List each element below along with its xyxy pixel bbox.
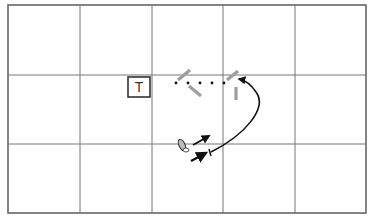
path-dot <box>223 82 226 85</box>
path-dot <box>211 82 214 85</box>
drill-diagram: T <box>0 0 372 223</box>
pass-marker-icon <box>209 149 211 156</box>
player-footprint-icon <box>177 138 189 152</box>
path-dot <box>187 82 190 85</box>
target-label: T <box>135 79 144 95</box>
cone-marker <box>189 86 201 96</box>
target-box: T <box>128 77 150 97</box>
path-dot <box>175 82 178 85</box>
pass-arrow <box>191 153 206 161</box>
dotted-run-path <box>175 82 226 85</box>
path-dot <box>199 82 202 85</box>
field-grid <box>8 5 366 213</box>
field-border <box>8 5 366 213</box>
